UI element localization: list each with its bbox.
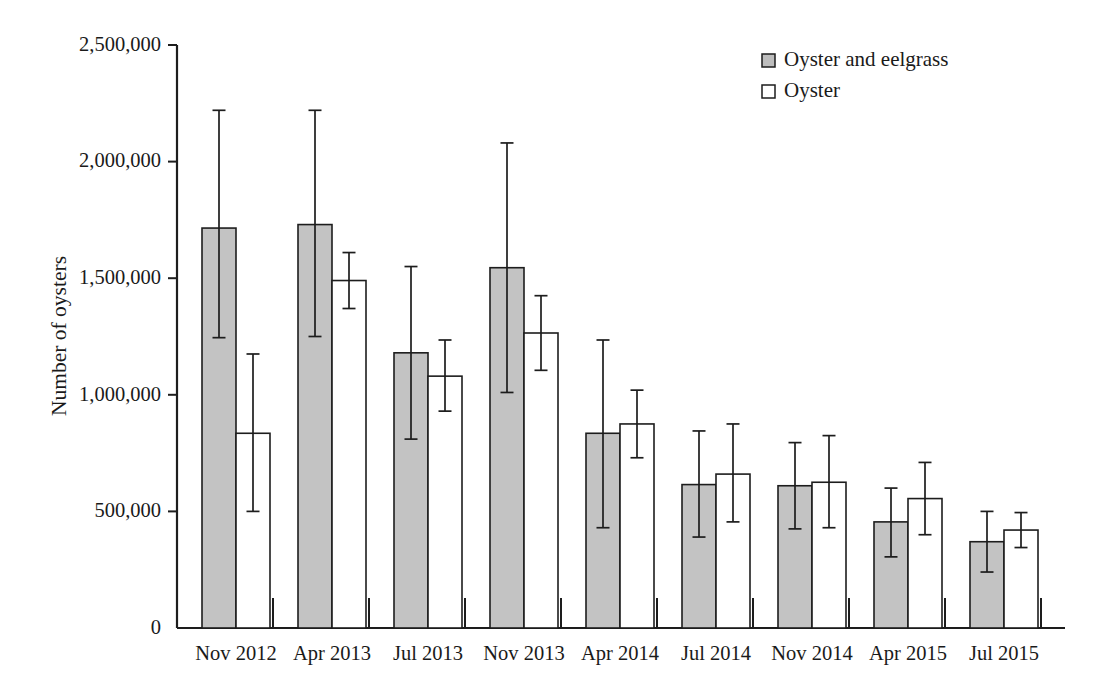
x-tick-label: Nov 2014 (771, 642, 852, 664)
bar-oyster (332, 281, 366, 628)
x-tick-label: Jul 2013 (393, 642, 463, 664)
x-tick-label: Jul 2014 (681, 642, 751, 664)
x-tick-labels: Nov 2012Apr 2013Jul 2013Nov 2013Apr 2014… (195, 642, 1039, 665)
bar-oyster (524, 333, 558, 628)
x-tick-label: Apr 2015 (869, 642, 947, 665)
y-tick-label: 500,000 (94, 499, 161, 521)
chart-canvas: 0500,0001,000,0001,500,0002,000,0002,500… (0, 0, 1095, 699)
y-tick-label: 2,000,000 (79, 149, 161, 171)
y-axis-title: Number of oysters (47, 256, 71, 416)
y-tick-label: 0 (151, 616, 161, 638)
y-tick-label: 2,500,000 (79, 33, 161, 55)
y-tick-label: 1,000,000 (79, 383, 161, 405)
legend-swatch-oyster (762, 85, 775, 98)
x-tick-label: Nov 2012 (195, 642, 276, 664)
y-tick-label: 1,500,000 (79, 266, 161, 288)
oyster-abundance-bar-chart: 0500,0001,000,0001,500,0002,000,0002,500… (0, 0, 1095, 699)
x-tick-label: Apr 2013 (293, 642, 371, 665)
x-tick-label: Apr 2014 (581, 642, 659, 665)
x-tick-label: Nov 2013 (483, 642, 564, 664)
x-tick-label: Jul 2015 (969, 642, 1039, 664)
legend-label: Oyster (784, 78, 840, 102)
legend-label: Oyster and eelgrass (784, 47, 948, 71)
legend-swatch-oyster-and-eelgrass (762, 54, 775, 67)
bar-oyster (428, 376, 462, 628)
